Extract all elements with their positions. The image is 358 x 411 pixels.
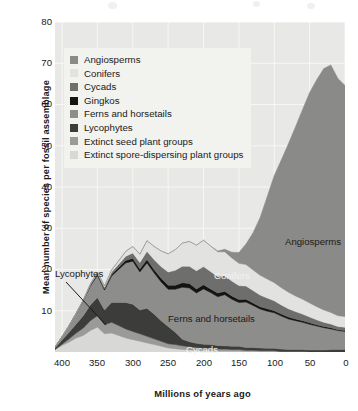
legend-label: Lycophytes [84,121,133,135]
legend-item: Cycads [70,80,243,94]
legend-item: Extinct seed plant groups [70,135,243,149]
legend-item: Gingkos [70,94,243,108]
legend-label: Extinct seed plant groups [84,135,193,149]
legend-swatch [70,97,78,105]
legend-swatch [70,83,78,91]
annotation-conifers: Conifers [214,270,250,281]
y-tick: 60 [26,99,52,109]
legend-item: Lycophytes [70,121,243,135]
x-axis-label: Millions of years ago [55,388,350,399]
x-tick: 50 [293,357,327,368]
x-tick: 400 [45,357,79,368]
annotation-angiosperms: Angiosperms [285,236,341,247]
chart-figure: Mean number of species per fossil assemb… [0,0,358,411]
legend-label: Extinct spore-dispersing plant groups [84,148,243,162]
legend-item: Conifers [70,67,243,81]
legend-label: Gingkos [84,94,120,108]
legend-swatch [70,151,78,159]
legend-swatch [70,137,78,145]
y-tick: 50 [26,141,52,151]
legend-label: Conifers [84,67,120,81]
y-axis-ticks: 80 70 60 50 40 30 20 10 [22,0,52,411]
legend-item: Angiosperms [70,53,243,67]
x-tick: 250 [151,357,185,368]
scan-artifact [253,1,260,7]
legend-label: Angiosperms [84,53,141,67]
legend-label: Ferns and horsetails [84,107,172,121]
y-tick: 30 [26,223,52,233]
x-tick: 200 [187,357,221,368]
annotation-lycophytes: Lycophytes [55,268,103,279]
legend-swatch [70,124,78,132]
legend-item: Ferns and horsetails [70,107,243,121]
legend-swatch [70,69,78,77]
chart-legend: Angiosperms Conifers Cycads Gingkos Fern… [64,48,251,168]
x-tick: 300 [116,357,150,368]
scan-artifact [108,2,117,9]
y-tick: 20 [26,264,52,274]
legend-label: Cycads [84,80,116,94]
annotation-cycads: Cycads [186,344,218,355]
y-tick: 40 [26,182,52,192]
x-tick: 100 [258,357,292,368]
x-tick: 150 [222,357,256,368]
x-tick: 0 [329,357,358,368]
y-tick: 10 [26,306,52,316]
x-tick: 350 [80,357,114,368]
y-tick: 70 [26,58,52,68]
legend-swatch [70,110,78,118]
scan-artifact [307,3,315,9]
annotation-ferns-and-horsetails: Ferns and horsetails [168,313,255,324]
legend-swatch [70,56,78,64]
y-tick: 80 [26,17,52,27]
legend-item: Extinct spore-dispersing plant groups [70,148,243,162]
